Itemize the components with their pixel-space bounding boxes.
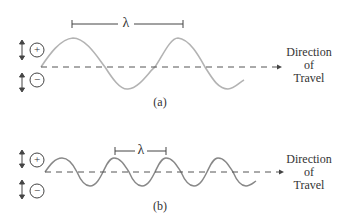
wavelength-label-b: λ — [134, 143, 148, 156]
negative-label-a: − — [31, 73, 43, 86]
caption-a: (a) — [148, 96, 172, 109]
direction-label-b: Direction of Travel — [279, 153, 339, 192]
up-down-arrow-icon-b-neg — [20, 180, 25, 199]
panel-b — [20, 147, 285, 199]
up-down-arrow-icon-b-pos — [20, 150, 25, 168]
direction-label-a: Direction of Travel — [279, 46, 339, 85]
wavelength-label-a: λ — [118, 16, 134, 29]
caption-b: (b) — [148, 200, 172, 213]
wave-a — [41, 38, 244, 89]
positive-label-b: + — [31, 153, 43, 166]
positive-label-a: + — [31, 43, 43, 56]
panel-a — [20, 20, 283, 92]
up-down-arrow-icon-a-neg — [20, 73, 25, 92]
negative-label-b: − — [31, 184, 43, 197]
up-down-arrow-icon-a-pos — [20, 40, 25, 60]
